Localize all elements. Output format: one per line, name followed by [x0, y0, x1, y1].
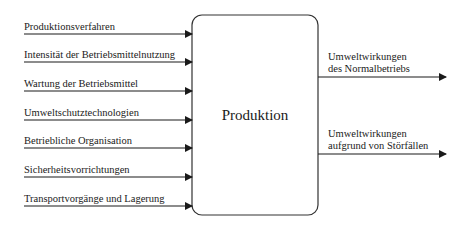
input-label-7: Transportvorgänge und Lagerung — [24, 193, 165, 205]
input-label-4: Umweltschutztechnologien — [24, 107, 139, 119]
input-label-1: Produktionsverfahren — [24, 21, 115, 33]
output-label-2-line1: Umweltwirkungen — [328, 128, 407, 140]
input-label-5: Betriebliche Organisation — [24, 135, 132, 147]
process-label: Produktion — [192, 15, 318, 215]
input-label-6: Sicherheitsvorrichtungen — [24, 164, 130, 176]
output-label-1-line2: des Normalbetriebs — [328, 63, 410, 75]
output-label-2-line2: aufgrund von Störfällen — [328, 140, 428, 152]
input-label-3: Wartung der Betriebsmittel — [24, 78, 138, 90]
output-label-1-line1: Umweltwirkungen — [328, 51, 407, 63]
input-label-2: Intensität der Betriebsmittelnutzung — [24, 49, 175, 61]
